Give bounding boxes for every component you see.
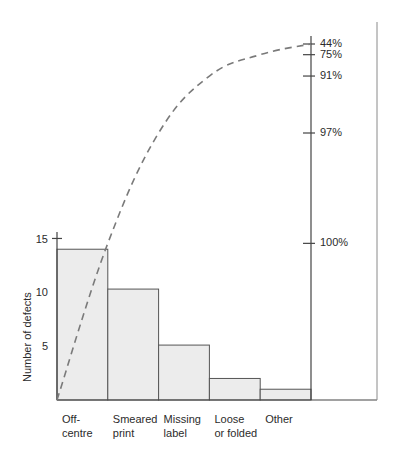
category-label-line1: Smeared <box>113 412 158 426</box>
category-label-missing-label: Missing label <box>164 412 201 440</box>
percent-label-91: 91% <box>320 70 342 81</box>
percent-label-100: 100% <box>320 237 348 248</box>
category-label-line1: Loose <box>214 412 257 426</box>
category-label-line1: Other <box>265 412 293 426</box>
category-label-line2: centre <box>62 426 93 440</box>
category-label-other: Other <box>265 412 293 426</box>
y-axis-title: Number of defects <box>22 292 33 382</box>
category-label-line2: label <box>164 426 201 440</box>
category-label-line2: or folded <box>214 426 257 440</box>
category-label-loose-or-folded: Loose or folded <box>214 412 257 440</box>
bar-loose-or-folded <box>209 378 260 400</box>
percent-label-97: 97% <box>320 127 342 138</box>
bars-group <box>57 249 311 400</box>
category-label-line1: Missing <box>164 412 201 426</box>
pareto-chart: 15 10 5 Number of defects 100% 97% 91% 7… <box>0 0 410 463</box>
category-label-smeared-print: Smeared print <box>113 412 158 440</box>
y-tick-label-15: 15 <box>30 234 48 245</box>
bar-off-centre <box>57 249 108 400</box>
bar-other <box>260 389 311 400</box>
percent-label-75: 75% <box>320 49 342 60</box>
category-label-line2: print <box>113 426 158 440</box>
percent-label-44: 44% <box>320 38 342 49</box>
chart-canvas <box>0 0 410 463</box>
category-label-line1: Off- <box>62 412 93 426</box>
bar-smeared-print <box>108 289 159 400</box>
category-label-off-centre: Off- centre <box>62 412 93 440</box>
right-axis-ticks <box>303 44 315 243</box>
bar-missing-label <box>159 345 210 400</box>
